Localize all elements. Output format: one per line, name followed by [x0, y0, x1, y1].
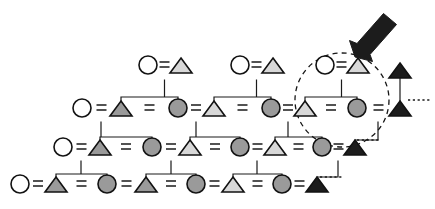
gen4-marriage-link-1 — [33, 181, 43, 186]
gen3-affinal-link-2 — [210, 144, 220, 149]
gen2-affinal-link-1 — [145, 105, 155, 110]
gen2-node-7 — [348, 99, 366, 117]
gen2-node-8 — [389, 101, 411, 116]
gen4-node-8 — [306, 177, 328, 192]
gen1-male-1 — [170, 58, 192, 73]
gen4-node-3 — [98, 175, 116, 193]
descent-line-unit-b — [214, 80, 271, 103]
gen4-node-1 — [11, 175, 29, 193]
kinship-nodes-layer — [11, 56, 411, 193]
gen3-node-8 — [344, 140, 366, 155]
descent-line-gen3-b — [146, 161, 196, 180]
right-column-apex-male — [389, 63, 411, 78]
gen2-marriage-link-3 — [283, 105, 293, 110]
descent-line-gen3-c — [233, 161, 282, 180]
descent-line-gen3-d — [317, 161, 338, 181]
gen2-node-3 — [169, 99, 187, 117]
gen3-affinal-link-1 — [121, 144, 131, 149]
gen3-node-3 — [143, 138, 161, 156]
gen3-node-1 — [54, 138, 72, 156]
descent-line-gen2-c — [275, 122, 322, 143]
kinship-diagram-canvas — [0, 0, 435, 209]
gen2-node-1 — [73, 99, 91, 117]
gen1-marriage-link-1 — [160, 62, 170, 67]
descent-line-gen2-b — [190, 122, 240, 143]
gen1-male-2 — [262, 58, 284, 73]
gen4-node-4 — [135, 177, 157, 192]
gen3-marriage-link-2 — [166, 144, 176, 149]
gen1-marriage-link-3 — [337, 62, 347, 67]
gen3-node-2 — [89, 140, 111, 155]
descent-line-gen3-a — [56, 161, 107, 180]
gen2-node-4 — [203, 101, 225, 116]
gen1-female-3 — [316, 56, 334, 74]
descent-line-unit-a — [121, 80, 178, 103]
annotation-arrow-icon — [350, 14, 397, 62]
gen1-female-1 — [139, 56, 157, 74]
gen4-node-7 — [273, 175, 291, 193]
gen4-marriage-link-2 — [122, 181, 132, 186]
gen4-marriage-link-4 — [295, 181, 305, 186]
descent-line-unit-c — [305, 80, 357, 103]
gen3-affinal-link-3 — [294, 144, 304, 149]
gen4-affinal-link-2 — [166, 181, 176, 186]
gen4-node-2 — [45, 177, 67, 192]
gen3-node-5 — [231, 138, 249, 156]
gen4-marriage-link-3 — [210, 181, 220, 186]
gen2-marriage-link-4 — [374, 105, 384, 110]
gen4-node-5 — [187, 175, 205, 193]
descent-line-gen2-a — [100, 122, 152, 143]
gen3-node-4 — [179, 140, 201, 155]
gen2-node-2 — [110, 101, 132, 116]
continuation-lines-group — [320, 100, 432, 177]
gen2-node-5 — [262, 99, 280, 117]
gen2-affinal-link-3 — [326, 105, 336, 110]
gen1-marriage-link-2 — [252, 62, 262, 67]
gen4-node-6 — [222, 177, 244, 192]
gen2-node-6 — [294, 101, 316, 116]
kinship-diagram-figure — [0, 0, 435, 209]
gen3-marriage-link-1 — [77, 144, 87, 149]
gen2-marriage-link-2 — [191, 105, 201, 110]
gen3-marriage-link-3 — [253, 144, 263, 149]
gen4-affinal-link-1 — [77, 181, 87, 186]
gen2-marriage-link-1 — [97, 105, 107, 110]
gen1-female-2 — [231, 56, 249, 74]
descent-lines-group — [56, 78, 400, 181]
gen2-affinal-link-2 — [238, 105, 248, 110]
gen3-node-7 — [313, 138, 331, 156]
annotation-arrow — [350, 14, 397, 62]
gen3-node-6 — [264, 140, 286, 155]
marriage-links-layer — [33, 62, 384, 186]
gen4-affinal-link-3 — [253, 181, 263, 186]
